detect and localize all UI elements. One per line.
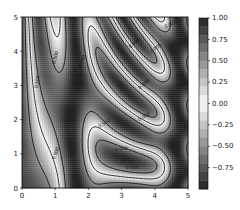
colorbar-tick-label: 1.00 bbox=[212, 14, 228, 22]
colorbar-tick-label: 0.25 bbox=[212, 78, 228, 86]
contour-chart: 0.5000.0000.0000.5000.000-0.5000.5000.00… bbox=[0, 0, 240, 210]
contour-label: -0.500 bbox=[124, 165, 139, 170]
x-tick-label: 4 bbox=[153, 192, 158, 200]
x-axis-ticks: 012345 bbox=[20, 188, 190, 200]
y-tick-label: 0 bbox=[14, 185, 18, 193]
colorbar-ticks: 1.000.750.500.250.00−0.25−0.50−0.75 bbox=[208, 14, 233, 172]
colorbar-tick-label: 0.75 bbox=[212, 36, 228, 44]
colorbar-tick-label: 0.50 bbox=[212, 57, 228, 65]
colorbar-tick-label: −0.25 bbox=[212, 121, 233, 129]
x-tick-label: 1 bbox=[53, 192, 57, 200]
y-tick-label: 3 bbox=[14, 82, 18, 90]
colorbar-tick-label: −0.75 bbox=[212, 164, 233, 172]
x-tick-label: 0 bbox=[20, 192, 24, 200]
colorbar-tick-label: 0.00 bbox=[212, 100, 228, 108]
y-tick-label: 1 bbox=[14, 150, 18, 158]
y-tick-label: 5 bbox=[14, 14, 18, 22]
x-tick-label: 2 bbox=[86, 192, 90, 200]
colorbar bbox=[199, 18, 208, 189]
x-tick-label: 3 bbox=[119, 192, 123, 200]
y-axis-ticks: 012345 bbox=[14, 14, 22, 193]
colorbar-tick-label: −0.50 bbox=[212, 142, 233, 150]
x-tick-label: 5 bbox=[186, 192, 190, 200]
y-tick-label: 2 bbox=[14, 116, 18, 124]
y-tick-label: 4 bbox=[14, 48, 19, 56]
